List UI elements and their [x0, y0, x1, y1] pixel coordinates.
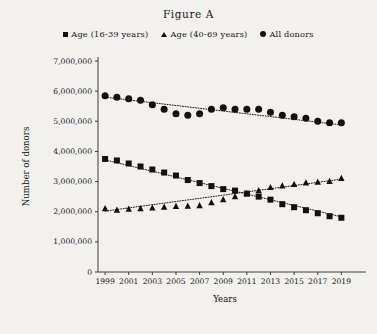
svg-text:1999: 1999 — [95, 277, 114, 286]
svg-text:2009: 2009 — [214, 277, 233, 286]
svg-text:1,000,000: 1,000,000 — [53, 237, 92, 246]
svg-text:2017: 2017 — [308, 277, 327, 286]
svg-text:2007: 2007 — [190, 277, 209, 286]
svg-text:2015: 2015 — [284, 277, 303, 286]
svg-text:2013: 2013 — [261, 277, 280, 286]
svg-text:2019: 2019 — [332, 277, 351, 286]
y-axis-title: Number of donors — [21, 127, 31, 207]
svg-text:6,000,000: 6,000,000 — [53, 87, 92, 96]
svg-text:7,000,000: 7,000,000 — [53, 57, 92, 66]
x-axis-ticks: 1999200120032005200720092011201320152017… — [95, 272, 351, 286]
svg-text:2005: 2005 — [166, 277, 185, 286]
svg-text:5,000,000: 5,000,000 — [53, 117, 92, 126]
figure-container: Figure A Age (16-39 years) Age (40-69 ye… — [0, 0, 377, 334]
svg-text:3,000,000: 3,000,000 — [53, 177, 92, 186]
data-points — [102, 92, 345, 221]
svg-text:2,000,000: 2,000,000 — [53, 207, 92, 216]
x-axis-title: Years — [212, 294, 237, 304]
svg-text:4,000,000: 4,000,000 — [53, 147, 92, 156]
svg-text:2001: 2001 — [119, 277, 138, 286]
chart-plot-area: 01,000,0002,000,0003,000,0004,000,0005,0… — [0, 0, 377, 334]
svg-text:2003: 2003 — [143, 277, 162, 286]
svg-text:2011: 2011 — [237, 277, 256, 286]
y-axis-ticks: 01,000,0002,000,0003,000,0004,000,0005,0… — [53, 57, 98, 277]
svg-text:0: 0 — [87, 268, 92, 277]
